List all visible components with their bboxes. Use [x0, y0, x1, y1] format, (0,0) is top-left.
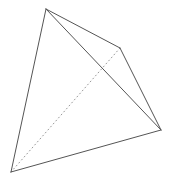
edge-backvertex-to-right [120, 48, 161, 130]
tetrahedron-canvas [0, 0, 172, 182]
tetrahedron-figure [0, 0, 172, 182]
edge-apex-to-backvertex [46, 9, 120, 48]
edge-bottomleft-to-right [11, 130, 161, 172]
edge-apex-to-right [46, 9, 161, 130]
edge-bottomleft-to-backvertex-hidden [11, 48, 120, 172]
edge-apex-to-bottomleft [11, 9, 46, 172]
